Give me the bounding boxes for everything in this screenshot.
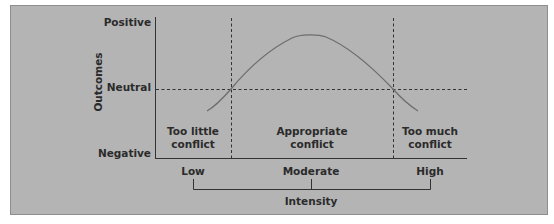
region-too-much-line2: conflict bbox=[408, 138, 452, 150]
x-level-high: High bbox=[416, 165, 443, 177]
y-axis-title: Outcomes bbox=[92, 52, 104, 111]
region-appropriate-line2: conflict bbox=[290, 138, 334, 150]
region-too-much-line1: Too much bbox=[402, 125, 458, 137]
conflict-outcome-diagram: Positive Neutral Negative Outcomes Too l… bbox=[0, 0, 554, 224]
y-level-positive: Positive bbox=[104, 16, 151, 28]
x-axis-title: Intensity bbox=[285, 195, 338, 207]
outcome-curve bbox=[207, 35, 418, 111]
y-level-neutral: Neutral bbox=[107, 81, 151, 93]
region-too-little-line1: Too little bbox=[167, 125, 219, 137]
y-level-negative: Negative bbox=[98, 147, 151, 159]
region-appropriate-line1: Appropriate bbox=[276, 125, 347, 137]
x-level-low: Low bbox=[181, 165, 205, 177]
region-too-little-line2: conflict bbox=[171, 138, 215, 150]
x-level-moderate: Moderate bbox=[283, 165, 340, 177]
intensity-bracket bbox=[194, 179, 431, 190]
